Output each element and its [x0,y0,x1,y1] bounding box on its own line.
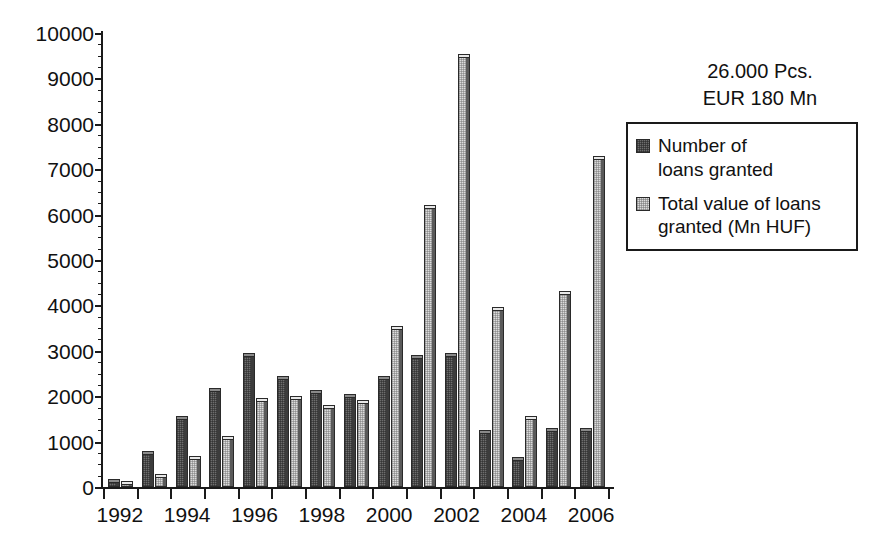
bar-top-cap [256,398,268,402]
y-axis-tick-minor [98,249,103,250]
bar [559,294,571,487]
bar-top-cap [593,156,605,160]
bar [492,310,504,487]
bar [344,397,356,487]
y-axis-tick-minor [98,237,103,238]
bar-top-cap [424,205,436,209]
y-axis-label: 5000 [47,250,94,271]
bar [525,419,537,487]
bar-top-cap [108,479,120,483]
bar [391,329,403,487]
bar-side-shadow [285,379,289,487]
y-axis-tick-minor [98,90,103,91]
y-axis-tick-major [95,396,103,398]
bar-side-shadow [601,159,605,487]
x-axis-tick [204,489,206,499]
bar [323,408,335,487]
bar-side-shadow [184,419,188,487]
bar-top-cap [344,394,356,398]
y-axis-tick-major [95,487,103,489]
y-axis-tick-minor [98,67,103,68]
y-axis-tick-minor [98,112,103,113]
bar [580,431,592,487]
x-axis-tick [574,489,576,499]
y-axis-tick-minor [98,339,103,340]
y-axis-label: 10000 [36,23,94,44]
x-axis-tick [103,489,105,499]
bar-top-cap [155,474,167,478]
y-axis-tick-major [95,442,103,444]
bar [290,399,302,487]
y-axis-tick-minor [98,328,103,329]
bar-top-cap [458,54,470,58]
bar [593,159,605,487]
bar [310,393,322,487]
x-axis-tick [608,489,610,499]
y-axis-tick-minor [98,135,103,136]
bar-top-cap [323,405,335,409]
y-axis-tick-minor [98,181,103,182]
bar-side-shadow [567,294,571,487]
y-axis-tick-minor [98,374,103,375]
bar-side-shadow [197,459,201,487]
y-axis-tick-minor [98,476,103,477]
bar [546,431,558,487]
x-axis-label: 2004 [500,504,547,525]
y-axis-tick-minor [98,408,103,409]
bar-side-shadow [264,401,268,487]
x-axis-tick [137,489,139,499]
y-axis-tick-minor [98,430,103,431]
bar-top-cap [277,376,289,380]
plot-area: 0100020003000400050006000700080009000100… [103,33,608,487]
y-axis-label: 2000 [47,386,94,407]
bar-top-cap [559,291,571,295]
bar [277,379,289,487]
annotation-block: 26.000 Pcs. EUR 180 Mn [660,58,860,112]
y-axis-tick-major [95,169,103,171]
annotation-line-2: EUR 180 Mn [660,85,860,112]
bar-top-cap [479,430,491,434]
bar [209,391,221,487]
bar-top-cap [357,400,369,404]
bar [512,460,524,487]
bar-top-cap [243,353,255,357]
bar-side-shadow [318,393,322,487]
y-axis-label: 9000 [47,68,94,89]
x-axis-tick [440,489,442,499]
x-axis-tick [170,489,172,499]
bar [108,482,120,487]
bar-side-shadow [399,329,403,487]
legend-label-total-value-of-loans: Total value of loans granted (Mn HUF) [658,192,821,240]
x-axis-tick [541,489,543,499]
bar-side-shadow [386,379,390,487]
bar-side-shadow [331,408,335,487]
bar-side-shadow [163,477,167,487]
bar [121,484,133,487]
bar-top-cap [189,456,201,460]
bar-top-cap [525,416,537,420]
y-axis-tick-minor [98,385,103,386]
bar-side-shadow [533,419,537,487]
bar-top-cap [445,353,457,357]
y-axis-label: 8000 [47,113,94,134]
y-axis-label: 0 [82,477,94,498]
bar-side-shadow [554,431,558,487]
x-axis-tick [473,489,475,499]
y-axis-tick-minor [98,101,103,102]
bar [411,358,423,487]
y-axis-tick-minor [98,317,103,318]
x-axis-tick [271,489,273,499]
bar-top-cap [121,481,133,485]
y-axis-tick-minor [98,158,103,159]
y-axis-label: 3000 [47,340,94,361]
x-axis-label: 1994 [164,504,211,525]
bar-top-cap [546,428,558,432]
bar [357,403,369,487]
y-axis-tick-major [95,124,103,126]
bar-top-cap [378,376,390,380]
bar-top-cap [290,396,302,400]
y-axis-tick-major [95,351,103,353]
bar-top-cap [209,388,221,392]
y-axis-tick-major [95,260,103,262]
bar [176,419,188,487]
